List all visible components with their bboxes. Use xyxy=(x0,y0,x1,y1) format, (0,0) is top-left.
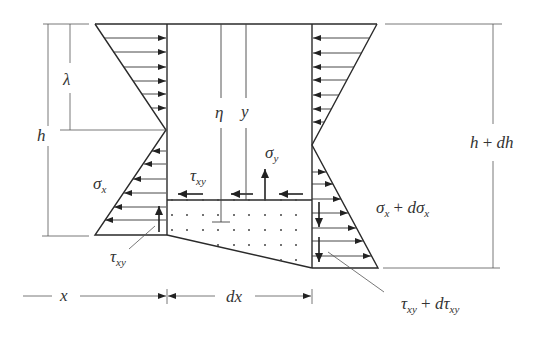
x-dimension-label: x xyxy=(59,286,68,305)
h-plus-dh-label: h + dh xyxy=(470,133,514,152)
y-label: y xyxy=(239,102,249,121)
background xyxy=(0,0,549,337)
dx-dimension-label: dx xyxy=(226,287,243,306)
stress-element-diagram: λ h η y σy τxy σx τxy σx + dσx h + dh τx… xyxy=(0,0,549,337)
lambda-label: λ xyxy=(62,70,70,89)
sigma-x-plus-d-sigma-x-label: σx + dσx xyxy=(376,198,429,219)
eta-label: η xyxy=(215,103,223,122)
h-label: h xyxy=(37,126,46,145)
